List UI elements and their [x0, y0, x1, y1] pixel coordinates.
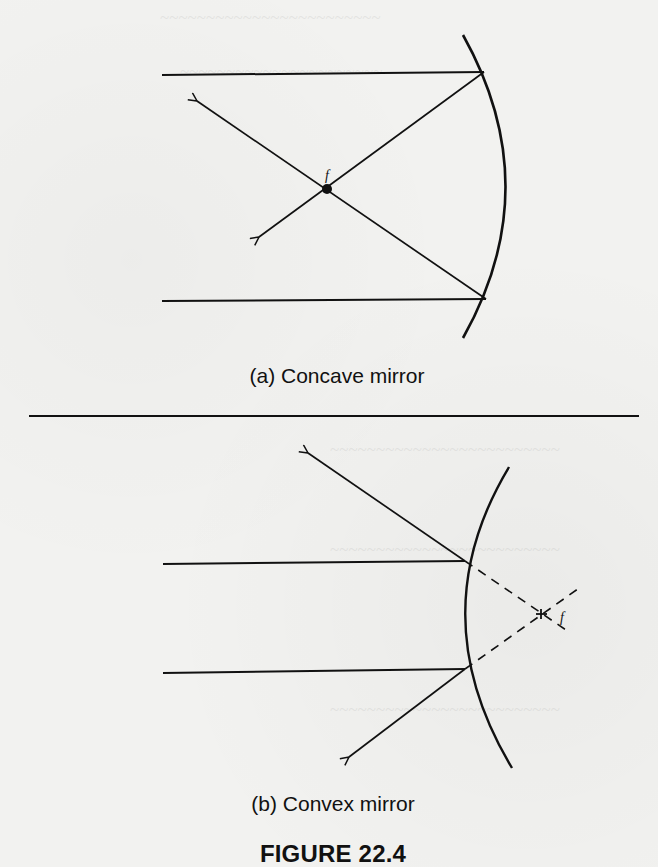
reflected-ray-bottom	[349, 669, 465, 757]
incident-ray-bottom	[163, 669, 465, 673]
caption-concave-mirror: (a) Concave mirror	[249, 364, 424, 388]
reflected-ray-top	[259, 72, 484, 237]
ray-diagram: f f	[0, 0, 658, 867]
virtual-ray-extension-top	[465, 561, 566, 630]
convex-mirror-arc	[465, 467, 512, 768]
concave-mirror-arc	[463, 35, 506, 338]
concave-mirror-panel: f	[162, 35, 506, 338]
textbook-page: ~~~~~~~~~~~~~~~~~~~~~~~~ ~~~~~~~~~~~~~~~…	[0, 0, 658, 867]
incident-ray-bottom	[162, 299, 486, 301]
caption-convex-mirror: (b) Convex mirror	[251, 792, 414, 816]
focal-point-label: f	[325, 168, 331, 183]
focal-point-dot	[322, 184, 332, 194]
virtual-ray-extension-bottom	[465, 586, 582, 669]
incident-ray-top	[163, 561, 465, 564]
reflected-ray-bottom	[197, 101, 486, 299]
virtual-focus-label: f	[560, 610, 566, 625]
figure-title: FIGURE 22.4	[260, 840, 406, 867]
convex-mirror-panel: f	[163, 453, 582, 768]
reflected-ray-top	[308, 453, 465, 561]
incident-ray-top	[162, 72, 484, 75]
